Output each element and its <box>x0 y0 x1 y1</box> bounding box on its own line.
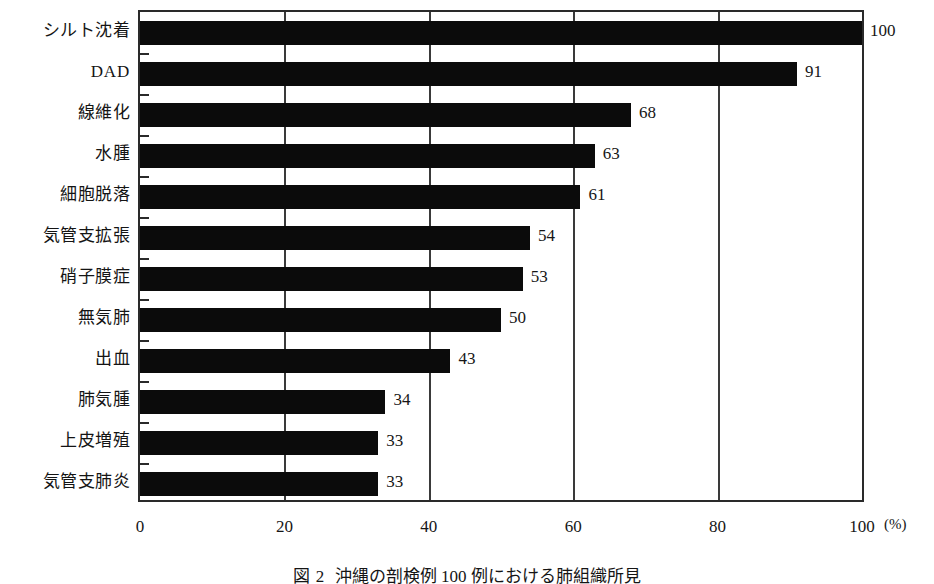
bar-value-label: 33 <box>386 431 403 451</box>
y-axis-tick <box>140 340 149 342</box>
bar-value-label: 63 <box>603 144 620 164</box>
bar-value-label: 50 <box>509 308 526 328</box>
bar-value-label: 68 <box>639 103 656 123</box>
bar <box>140 390 385 414</box>
bar-value-label: 43 <box>458 349 475 369</box>
bar <box>140 308 501 332</box>
category-label-column: シルト沈着DAD線維化水腫細胞脱落気管支拡張硝子膜症無気肺出血肺気腫上皮増殖気管… <box>0 10 130 502</box>
bar-value-label: 34 <box>393 390 410 410</box>
bar-value-label: 54 <box>538 226 555 246</box>
bar-value-label: 33 <box>386 472 403 492</box>
x-axis-tick-labels: 020406080100 <box>0 516 934 544</box>
category-label: 気管支拡張 <box>0 226 130 246</box>
category-label: 肺気腫 <box>0 390 130 410</box>
bar <box>140 226 530 250</box>
category-label: 硝子膜症 <box>0 267 130 287</box>
x-axis-tick-label: 40 <box>420 516 437 538</box>
figure-caption: 図 2沖縄の剖検例 100 例における肺組織所見 <box>0 566 934 584</box>
y-axis-tick <box>140 176 149 178</box>
category-label: シルト沈着 <box>0 21 130 41</box>
y-axis-tick <box>140 258 149 260</box>
y-axis-tick <box>140 53 149 55</box>
category-label: 上皮増殖 <box>0 431 130 451</box>
y-axis-tick <box>140 217 149 219</box>
bar <box>140 349 450 373</box>
bar <box>140 103 631 127</box>
figure-caption-number: 図 2 <box>293 567 324 584</box>
y-axis-tick <box>140 135 149 137</box>
x-axis-tick-label: 80 <box>709 516 726 538</box>
x-axis-tick-label: 20 <box>276 516 293 538</box>
bar-chart-figure: シルト沈着DAD線維化水腫細胞脱落気管支拡張硝子膜症無気肺出血肺気腫上皮増殖気管… <box>0 0 934 584</box>
bar-value-label: 91 <box>805 62 822 82</box>
category-label: DAD <box>0 62 130 82</box>
category-label: 線維化 <box>0 103 130 123</box>
category-label: 無気肺 <box>0 308 130 328</box>
bar-value-label: 100 <box>870 21 896 41</box>
y-axis-tick <box>140 299 149 301</box>
category-label: 出血 <box>0 349 130 369</box>
x-axis-tick-label: 100 <box>849 516 875 538</box>
x-axis-tick-label: 0 <box>136 516 145 538</box>
bar-value-label: 53 <box>531 267 548 287</box>
bar <box>140 431 378 455</box>
y-axis-tick <box>140 422 149 424</box>
y-axis-tick <box>140 463 149 465</box>
figure-page: シルト沈着DAD線維化水腫細胞脱落気管支拡張硝子膜症無気肺出血肺気腫上皮増殖気管… <box>0 0 934 584</box>
bar <box>140 267 523 291</box>
category-label: 気管支肺炎 <box>0 472 130 492</box>
bar <box>140 185 580 209</box>
x-axis-unit-label: (%) <box>884 514 907 534</box>
bar-value-label: 61 <box>588 185 605 205</box>
category-label: 水腫 <box>0 144 130 164</box>
bar <box>140 21 862 45</box>
bar <box>140 62 797 86</box>
y-axis-tick <box>140 381 149 383</box>
bar <box>140 472 378 496</box>
y-axis-tick <box>140 94 149 96</box>
category-label: 細胞脱落 <box>0 185 130 205</box>
bar <box>140 144 595 168</box>
x-axis-tick-label: 60 <box>565 516 582 538</box>
figure-caption-text: 沖縄の剖検例 100 例における肺組織所見 <box>335 567 641 584</box>
plot-area <box>138 10 864 502</box>
